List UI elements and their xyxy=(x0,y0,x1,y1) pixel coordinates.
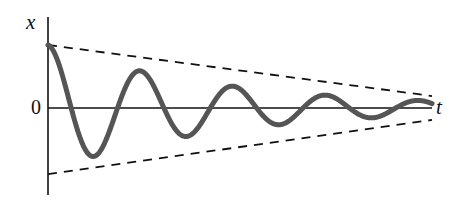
origin-tick-label: 0 xyxy=(31,97,41,117)
damped-oscillation-curve xyxy=(48,45,432,156)
y-axis-label: x xyxy=(26,12,35,33)
lower-envelope-line xyxy=(48,120,432,174)
plot-canvas xyxy=(0,0,452,208)
x-axis-label: t xyxy=(436,97,442,118)
damped-oscillation-figure: x 0 t xyxy=(0,0,452,208)
